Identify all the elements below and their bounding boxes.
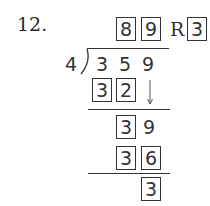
difference-digit-box[interactable]: 3 bbox=[116, 115, 136, 139]
remainder-box[interactable]: 3 bbox=[187, 17, 207, 41]
product-digit-box[interactable]: 3 bbox=[116, 146, 136, 170]
product-digit-box[interactable]: 3 bbox=[92, 78, 112, 102]
quotient-digit-box[interactable]: 8 bbox=[116, 17, 136, 41]
dividend-digit: 5 bbox=[115, 52, 135, 76]
product-digit-box[interactable]: 6 bbox=[141, 146, 161, 170]
divisor: 4 bbox=[61, 52, 81, 76]
dividend-digit: 9 bbox=[138, 52, 158, 76]
bring-down-arrow-icon bbox=[145, 80, 155, 106]
brought-down-digit: 9 bbox=[139, 115, 159, 139]
product-digit-box[interactable]: 2 bbox=[116, 78, 136, 102]
final-remainder-box[interactable]: 3 bbox=[141, 177, 161, 201]
remainder-label: R bbox=[170, 17, 184, 41]
quotient-digit-box[interactable]: 9 bbox=[141, 17, 161, 41]
dividend-digit: 3 bbox=[92, 52, 112, 76]
problem-number: 12. bbox=[17, 15, 47, 34]
subtraction-line bbox=[88, 109, 170, 110]
division-bar bbox=[87, 48, 169, 49]
subtraction-line bbox=[88, 173, 170, 174]
